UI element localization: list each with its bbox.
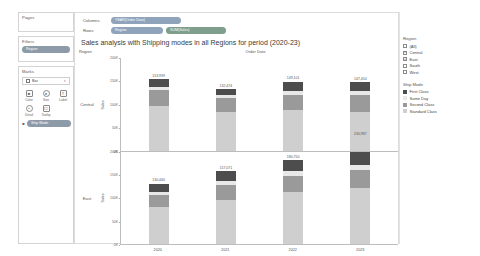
filters-label: Filters (19, 37, 73, 45)
bar-value-label: 130,440 (152, 178, 165, 182)
marks-type-dropdown[interactable]: Bar ▾ (22, 77, 70, 85)
x-tick-label: 2022 (283, 248, 303, 252)
bar-group[interactable]: 149,101 (283, 58, 303, 151)
right-legend-panel: Region (All)✓Central✓EastSouthWest Ship … (403, 36, 465, 121)
marks-button-size[interactable]: ● Size (38, 89, 54, 103)
region-filter-item[interactable]: West (403, 69, 465, 76)
x-tick-label: 2020 (148, 248, 168, 252)
checkbox-icon[interactable] (403, 70, 407, 74)
bar-segment[interactable] (216, 112, 236, 150)
plot-central: 153,939132,474149,101147,454 (120, 58, 398, 152)
plot-panels: Central Sales 0K50K100K150K200K 153,9391… (75, 58, 398, 245)
x-axis: 2020202120222023 (75, 245, 398, 254)
ship-mode-legend-item-label: Standard Class (410, 109, 437, 114)
panel-divider (399, 12, 400, 244)
bars-central: 153,939132,474149,101147,454 (121, 58, 398, 151)
bar-segment[interactable] (149, 79, 169, 86)
detail-icon: • (26, 105, 33, 112)
checkbox-icon[interactable] (403, 64, 407, 68)
bar-segment[interactable] (283, 110, 303, 151)
x-tick-label: 2021 (215, 248, 235, 252)
rows-shelf[interactable]: Rows Region SUM(Sales) (78, 25, 395, 35)
legend-color-swatch (403, 103, 407, 107)
columns-label: Columns (83, 18, 100, 23)
ship-mode-legend-item-label: First Class (410, 89, 429, 94)
marks-button-tooltip[interactable]: ☐ Tooltip (38, 104, 54, 118)
ship-mode-legend-title: Ship Mode (403, 82, 465, 87)
marks-color-label: Color (25, 98, 33, 102)
bar-value-label: 230,987 (354, 132, 367, 136)
bar-segment[interactable] (350, 170, 370, 188)
bar-value-label: 157,071 (220, 166, 233, 170)
marks-buttons-grid: ■ Color ● Size T Label • Detail ☐ Tool (19, 87, 73, 118)
bar-group[interactable]: 180,750 (283, 152, 303, 245)
y-tick-label: 0K (114, 243, 118, 247)
panel-central: Central Sales 0K50K100K150K200K 153,9391… (75, 58, 398, 152)
bar-segment[interactable] (283, 95, 303, 110)
label-icon: T (60, 90, 67, 97)
columns-shelf[interactable]: Columns YEAR(Order Date) (78, 15, 395, 25)
marks-button-detail[interactable]: • Detail (21, 104, 37, 118)
filters-shelf[interactable]: Filters Region (18, 36, 74, 62)
bar-segment[interactable] (283, 192, 303, 244)
rows-pill-region[interactable]: Region (111, 27, 163, 34)
marks-button-label[interactable]: T Label (55, 89, 71, 103)
bar-mark-icon (26, 79, 30, 83)
region-filter-title: Region (403, 36, 465, 41)
bar-segment[interactable] (216, 185, 236, 200)
columns-pill-year-order-date[interactable]: YEAR(Order Date) (111, 17, 181, 24)
bar-group[interactable]: 147,454 (350, 58, 370, 151)
tableau-worksheet-window: Pages Filters Region Marks Bar ▾ ■ Color (0, 0, 480, 256)
header-region: Region (75, 49, 113, 58)
filter-pill-region[interactable]: Region (22, 46, 70, 53)
bar-group[interactable]: 130,440 (149, 152, 169, 245)
checkbox-checked-icon[interactable]: ✓ (403, 57, 407, 61)
y-tick-label: 50K (112, 126, 118, 130)
row-header-east: East (75, 152, 99, 246)
bar-segment[interactable] (149, 106, 169, 150)
grip-icon (78, 28, 81, 33)
ship-mode-legend-item[interactable]: Standard Class (403, 108, 465, 115)
bar-value-label: 132,474 (220, 84, 233, 88)
marks-button-color[interactable]: ■ Color (21, 89, 37, 103)
region-filter-card: Region (All)✓Central✓EastSouthWest (403, 36, 465, 76)
checkbox-checked-icon[interactable]: ✓ (403, 51, 407, 55)
bar-segment[interactable] (350, 95, 370, 112)
bar-segment[interactable] (283, 82, 303, 91)
bar-segment[interactable] (283, 176, 303, 193)
bars-east: 130,440157,071180,750230,987 (121, 152, 398, 245)
marks-label-label: Label (59, 98, 67, 102)
bar-group[interactable]: 153,939 (149, 58, 169, 151)
bar-segment[interactable] (216, 200, 236, 244)
rows-pill-sum-sales[interactable]: SUM(Sales) (166, 27, 226, 34)
plot-east: 130,440157,071180,750230,987 (120, 152, 398, 246)
y-axis-east: 0K50K100K150K200K (106, 152, 120, 246)
bar-segment[interactable] (350, 82, 370, 91)
legend-color-swatch (403, 90, 407, 94)
bar-segment[interactable] (149, 195, 169, 207)
checkbox-icon[interactable] (403, 44, 407, 48)
bar-segment[interactable] (216, 171, 236, 181)
y-tick-label: 100K (110, 196, 118, 200)
pages-shelf[interactable]: Pages (18, 12, 74, 32)
bar-segment[interactable] (149, 207, 169, 244)
bar-segment[interactable] (350, 152, 370, 165)
bar-segment[interactable] (149, 184, 169, 192)
pages-label: Pages (19, 13, 73, 21)
bar-group[interactable]: 230,987 (350, 152, 370, 245)
bar-segment[interactable] (283, 160, 303, 171)
legend-color-swatch (403, 96, 407, 100)
marks-pill-ship-mode[interactable]: Ship Mode (27, 120, 71, 127)
bar-segment[interactable] (149, 90, 169, 106)
columns-label-wrap: Columns (78, 18, 108, 23)
axis-title-sales-east: Sales (99, 152, 106, 246)
bar-value-label: 180,750 (287, 155, 300, 159)
bar-segment[interactable] (350, 188, 370, 244)
y-axis-central: 0K50K100K150K200K (106, 58, 120, 152)
bar-group[interactable]: 157,071 (216, 152, 236, 245)
bar-segment[interactable] (216, 98, 236, 112)
bar-group[interactable]: 132,474 (216, 58, 236, 151)
ship-mode-legend-item-label: Second Class (410, 102, 435, 107)
marks-tooltip-label: Tooltip (41, 113, 50, 117)
y-tick-label: 150K (110, 173, 118, 177)
